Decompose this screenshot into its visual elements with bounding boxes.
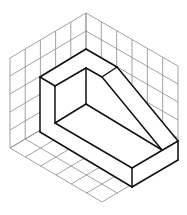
isometric-drawing xyxy=(0,0,187,215)
l-block-with-rib xyxy=(40,49,178,187)
isometric-svg xyxy=(0,0,187,215)
